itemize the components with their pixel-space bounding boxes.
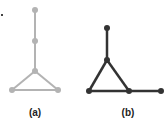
graph-edge xyxy=(89,60,107,91)
graph-node xyxy=(32,38,38,44)
graph-node xyxy=(55,87,61,93)
graph-node xyxy=(9,87,15,93)
graph-edge xyxy=(107,60,129,91)
graph-edge xyxy=(35,71,58,90)
graph-node xyxy=(104,57,110,63)
graph-node xyxy=(32,7,38,13)
panel-a-label: (a) xyxy=(29,107,41,118)
graph-edge xyxy=(12,71,35,90)
graph-node xyxy=(126,88,132,94)
graph-panel-a xyxy=(9,7,61,93)
graph-canvas xyxy=(0,0,166,122)
stray-dot xyxy=(1,14,3,16)
panel-b-label: (b) xyxy=(122,107,135,118)
graph-node xyxy=(86,88,92,94)
graph-node xyxy=(32,68,38,74)
graph-node xyxy=(104,25,110,31)
graph-panel-b xyxy=(86,25,164,94)
graph-node xyxy=(158,88,164,94)
